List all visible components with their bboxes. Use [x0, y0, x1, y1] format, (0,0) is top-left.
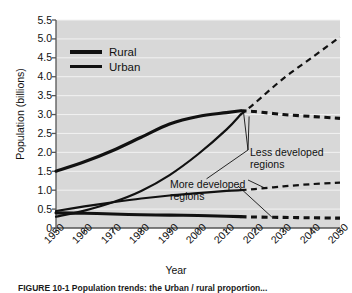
leader-line: [207, 150, 248, 179]
chart-legend: Rural Urban: [70, 44, 140, 74]
leader-line: [248, 116, 249, 150]
annotation-less-developed-regions: Less developed regions: [250, 146, 345, 170]
figure-caption: FIGURE 10-1 Population trends: the Urban…: [18, 284, 338, 293]
legend-item-urban: Urban: [70, 59, 140, 74]
y-tick-label: 1.5: [26, 166, 52, 177]
y-tick-label: 0.5: [26, 204, 52, 215]
y-axis-tick-labels: 00.51.01.52.02.53.03.54.04.55.05.5: [22, 0, 52, 292]
y-tick-label: 3.5: [26, 90, 52, 101]
legend-label-rural: Rural: [109, 46, 136, 58]
y-tick-label: 5.0: [26, 33, 52, 44]
series-line-observed: [56, 213, 241, 217]
y-tick-label: 2.0: [26, 147, 52, 158]
y-tick-label: 2.5: [26, 128, 52, 139]
legend-swatch-rural-icon: [70, 50, 102, 54]
series-line-projected: [241, 37, 340, 115]
annotation-more-developed-regions: More developed regions: [170, 178, 265, 202]
legend-item-rural: Rural: [70, 44, 140, 59]
y-tick-label: 4.0: [26, 71, 52, 82]
legend-label-urban: Urban: [109, 61, 140, 73]
y-axis-title: Population (billions): [14, 54, 26, 174]
legend-swatch-urban-icon: [70, 65, 102, 68]
y-tick-label: 1.0: [26, 185, 52, 196]
y-tick-label: 4.5: [26, 52, 52, 63]
x-axis-title: Year: [0, 264, 352, 276]
leader-line: [243, 112, 248, 150]
y-tick-label: 5.5: [26, 15, 52, 26]
y-tick-label: 3.0: [26, 109, 52, 120]
series-line-projected: [241, 217, 340, 219]
